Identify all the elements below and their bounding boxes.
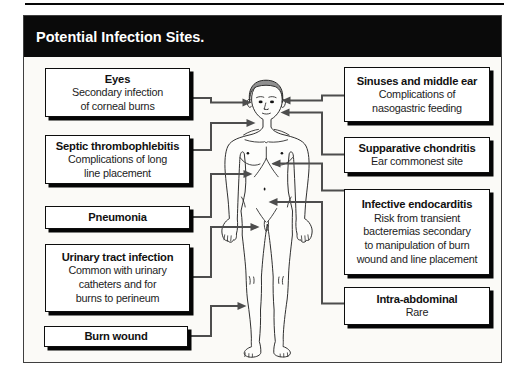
box-title: Infective endocarditis: [362, 197, 473, 211]
box-line: catheters and for: [79, 278, 157, 292]
box-title: Intra-abdominal: [377, 292, 458, 306]
arrowhead-icon: [238, 302, 247, 310]
figure-page: Potential Infection Sites. Eyes Secondar…: [0, 0, 532, 379]
arrow-eyes-connector: [190, 98, 252, 107]
nipple-right: [281, 152, 284, 155]
label-box-pneumonia: Pneumonia: [45, 206, 190, 229]
box-line: bacteremias secondary: [363, 225, 470, 239]
box-line: Rare: [406, 306, 429, 320]
box-title: Urinary tract infection: [62, 250, 174, 264]
navel: [264, 188, 266, 191]
box-line: Common with urinary: [68, 264, 166, 278]
arrow-burn-wound-connector: [188, 302, 247, 336]
label-box-suppurative-chondritis: Supparative chondritis Ear commonest sit…: [344, 137, 490, 173]
box-title: Septic thrombophlebitis: [56, 139, 179, 153]
arrowhead-icon: [247, 119, 256, 127]
box-line: wound and line placement: [357, 253, 478, 267]
box-line: Complications of: [379, 88, 456, 102]
eye-right: [270, 101, 274, 104]
label-box-burn-wound: Burn wound: [44, 326, 188, 347]
nipple-left: [247, 152, 250, 155]
arrowhead-icon: [281, 109, 290, 117]
box-line: line placement: [84, 167, 151, 181]
box-title: Sinuses and middle ear: [357, 74, 478, 88]
box-line: Risk from transient: [374, 212, 460, 226]
human-body-front-outline: [222, 80, 312, 357]
label-box-eyes: Eyes Secondary infection of corneal burn…: [45, 68, 190, 117]
eye-left: [259, 101, 263, 104]
label-box-urinary-tract-infection: Urinary tract infection Common with urin…: [45, 244, 190, 312]
label-box-intra-abdominal: Intra-abdominal Rare: [344, 287, 490, 325]
box-title: Eyes: [105, 72, 130, 86]
box-line: of corneal burns: [80, 100, 154, 114]
label-box-sinuses-middle-ear: Sinuses and middle ear Complications of …: [344, 67, 490, 122]
box-line: Ear commonest site: [371, 155, 463, 169]
box-title: Supparative chondritis: [359, 141, 476, 155]
label-box-septic-thrombophlebitis: Septic thrombophlebitis Complications of…: [45, 135, 190, 184]
box-line: burns to perineum: [76, 292, 160, 306]
box-line: Complications of long: [68, 153, 167, 167]
box-line: to manipulation of burn: [364, 239, 469, 253]
box-line: Secondary infection: [72, 86, 163, 100]
box-title: Pneumonia: [88, 210, 147, 224]
box-title: Burn wound: [84, 329, 147, 343]
box-line: nasogastric feeding: [372, 102, 462, 116]
label-box-infective-endocarditis: Infective endocarditis Risk from transie…: [344, 189, 490, 275]
arrow-sinuses-connector: [282, 96, 345, 105]
